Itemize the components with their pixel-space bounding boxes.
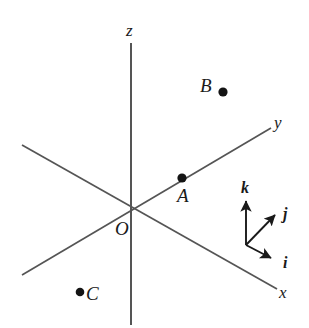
basis-label-k: k [241, 180, 249, 196]
basis-vector-i-arrow [246, 245, 271, 258]
axis-line-y [22, 128, 271, 275]
coordinate-axes-figure: z y x O A B C k j i [0, 0, 309, 328]
axis-line-x [22, 145, 277, 289]
point-label-B: B [200, 76, 212, 95]
axis-label-z: z [126, 22, 133, 39]
origin-label: O [115, 219, 129, 238]
basis-label-j: j [283, 206, 287, 222]
point-dot-A [177, 173, 186, 182]
point-dot-B [218, 87, 227, 96]
figure-canvas [0, 0, 309, 328]
basis-label-i: i [283, 255, 287, 271]
point-label-C: C [86, 284, 99, 303]
point-dot-C [76, 288, 85, 297]
axis-label-y: y [274, 114, 282, 131]
basis-vector-j-arrow [246, 215, 275, 245]
axis-label-x: x [279, 284, 287, 301]
point-label-A: A [177, 186, 189, 205]
